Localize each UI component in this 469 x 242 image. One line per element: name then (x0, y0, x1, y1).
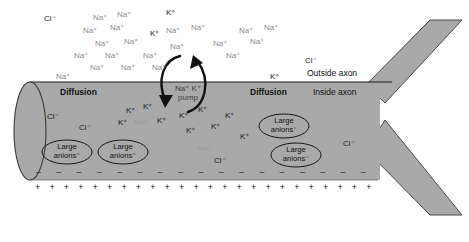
membrane-inside-negative-charge: – (341, 168, 346, 177)
intracellular-ion-label: Cl⁻ (343, 140, 355, 148)
membrane-outside-positive-charge: + (49, 183, 54, 192)
axon-illustration (0, 0, 469, 242)
extracellular-ion-label: K⁺ (150, 30, 159, 38)
large-anions-line2: anions⁻ (99, 152, 147, 161)
membrane-outside-positive-charge: + (150, 183, 155, 192)
extracellular-ion-label: K⁺ (166, 9, 175, 17)
intracellular-ion-label: K⁺ (198, 106, 207, 114)
diffusion-label-right: Diffusion (250, 88, 287, 97)
intracellular-ion-label: K⁺ (225, 112, 234, 120)
intracellular-ion-label: K⁺ (240, 133, 249, 141)
extracellular-ion-label: Na⁺ (191, 24, 205, 32)
membrane-outside-positive-charge: + (237, 183, 242, 192)
large-anions-label: Largeanions⁻ (99, 143, 147, 160)
membrane-outside-positive-charge: + (366, 183, 371, 192)
membrane-inside-negative-charge: – (97, 168, 102, 177)
extracellular-ion-label: Na⁺ (83, 27, 97, 35)
intracellular-ion-label: K⁺ (186, 127, 195, 135)
membrane-outside-positive-charge: + (337, 183, 342, 192)
membrane-inside-negative-charge: – (239, 168, 244, 177)
membrane-outside-positive-charge: + (280, 183, 285, 192)
large-anions-label: Largeanions⁻ (260, 117, 308, 134)
large-anions-line2: anions⁻ (260, 126, 308, 135)
extracellular-ion-label: Na⁺ (250, 38, 264, 46)
outside-axon-label: Outside axon (307, 69, 357, 78)
membrane-inside-negative-charge: – (320, 168, 325, 177)
intracellular-ion-label: Cl⁻ (214, 157, 226, 165)
membrane-inside-negative-charge: – (259, 168, 264, 177)
membrane-inside-negative-charge: – (300, 168, 305, 177)
intracellular-ion-label: Cl⁻ (79, 124, 91, 132)
intracellular-ion-label: Na⁺ (134, 119, 148, 127)
intracellular-ion-label: Na⁺ (198, 145, 212, 153)
extracellular-ion-label: Na⁺ (74, 52, 88, 60)
membrane-outside-positive-charge: + (222, 183, 227, 192)
large-anions-line2: anions⁻ (272, 155, 320, 164)
extracellular-ion-label: Na⁺ (110, 24, 124, 32)
membrane-outside-positive-charge: + (107, 183, 112, 192)
extracellular-ion-label: Na⁺ (166, 27, 180, 35)
membrane-inside-negative-charge: – (280, 168, 285, 177)
pump-ions-line: Na⁺ K⁺ (175, 84, 201, 93)
membrane-outside-positive-charge: + (251, 183, 256, 192)
membrane-inside-negative-charge: – (361, 168, 366, 177)
large-anions-line2: anions⁻ (43, 152, 91, 161)
extracellular-ion-label: Na⁺ (264, 24, 278, 32)
intracellular-ion-label: K⁺ (179, 112, 188, 120)
diffusion-label-left: Diffusion (60, 88, 97, 97)
intracellular-ion-label: K⁺ (118, 119, 127, 127)
axon-diagram: Diffusion Diffusion Outside axon Inside … (0, 0, 469, 242)
extracellular-ion-label: Na⁺ (152, 64, 166, 72)
membrane-inside-negative-charge: – (56, 168, 61, 177)
membrane-outside-positive-charge: + (165, 183, 170, 192)
membrane-outside-positive-charge: + (294, 183, 299, 192)
axon-branch-lower (366, 120, 462, 215)
pump-word-line: pump (178, 93, 198, 102)
extracellular-ion-label: Na⁺ (95, 40, 109, 48)
extracellular-ion-label: Na⁺ (56, 73, 70, 81)
membrane-outside-positive-charge: + (193, 183, 198, 192)
membrane-outside-positive-charge: + (64, 183, 69, 192)
membrane-inside-negative-charge: – (36, 168, 41, 177)
sodium-potassium-pump-label: Na⁺ K⁺ pump (157, 84, 219, 102)
membrane-outside-positive-charge: + (323, 183, 328, 192)
membrane-outside-positive-charge: + (35, 183, 40, 192)
membrane-outside-positive-charge: + (93, 183, 98, 192)
extracellular-ion-label: Na⁺ (105, 52, 119, 60)
extracellular-ion-label: Na⁺ (213, 40, 227, 48)
membrane-outside-positive-charge: + (309, 183, 314, 192)
extracellular-ion-label: Na⁺ (117, 11, 131, 19)
intracellular-ion-label: K⁺ (143, 103, 152, 111)
membrane-inside-negative-charge: – (138, 168, 143, 177)
membrane-inside-negative-charge: – (158, 168, 163, 177)
membrane-inside-negative-charge: – (178, 168, 183, 177)
membrane-outside-positive-charge: + (121, 183, 126, 192)
axon-end-cap (14, 82, 46, 180)
membrane-inside-negative-charge: – (117, 168, 122, 177)
extracellular-ion-label: Na⁺ (90, 64, 104, 72)
intracellular-ion-label: K⁺ (157, 117, 166, 125)
large-anions-label: Largeanions⁻ (43, 143, 91, 160)
extracellular-ion-label: Na⁺ (226, 52, 240, 60)
large-anions-label: Largeanions⁻ (272, 146, 320, 163)
extracellular-ion-label: Cl⁻ (305, 57, 317, 65)
intracellular-ion-label: K⁺ (126, 107, 135, 115)
extracellular-ion-label: Na⁺ (121, 64, 135, 72)
extracellular-ion-label: Na⁺ (124, 38, 138, 46)
extracellular-ion-label: Na⁺ (93, 14, 107, 22)
membrane-outside-positive-charge: + (208, 183, 213, 192)
membrane-outside-positive-charge: + (265, 183, 270, 192)
extracellular-ion-label: K⁺ (270, 73, 279, 81)
membrane-outside-positive-charge: + (136, 183, 141, 192)
inside-axon-label: Inside axon (313, 88, 356, 97)
intracellular-ion-label: K⁺ (211, 123, 220, 131)
extracellular-ion-label: Na⁺ (143, 52, 157, 60)
axon-branch-upper (366, 20, 462, 103)
extracellular-ion-label: Na⁺ (170, 43, 184, 51)
membrane-outside-positive-charge: + (78, 183, 83, 192)
membrane-outside-positive-charge: + (352, 183, 357, 192)
membrane-inside-negative-charge: – (198, 168, 203, 177)
membrane-outside-positive-charge: + (179, 183, 184, 192)
membrane-inside-negative-charge: – (219, 168, 224, 177)
extracellular-ion-label: Cl⁻ (44, 15, 56, 23)
